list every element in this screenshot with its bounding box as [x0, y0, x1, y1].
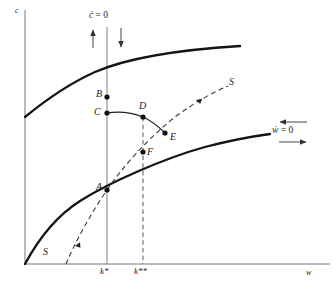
point-marker-E [162, 130, 167, 135]
upper-curve [25, 46, 240, 117]
point-label-C: C [94, 107, 101, 117]
point-marker-A [104, 187, 109, 192]
transition-path-c-to-e [107, 112, 165, 133]
saddle-arrowhead-lower-icon [75, 241, 83, 249]
x-axis-label: w [306, 269, 311, 277]
point-label-D: D [139, 101, 146, 111]
saddle-path-group [66, 86, 228, 264]
saddle-path-lower-branch [66, 190, 107, 264]
point-markers-group [104, 94, 167, 192]
c-dot-zero-isocline [93, 27, 121, 264]
saddle-label-upper: S [229, 77, 234, 87]
phase-diagram-figure: c w k* k** ċ = 0 ẇ = 0 S S A B C D E F [0, 0, 336, 290]
y-axis-label: c [15, 7, 19, 15]
point-marker-D [140, 114, 145, 119]
point-label-F: F [147, 147, 153, 157]
axes-group [25, 10, 330, 264]
point-label-E: E [170, 132, 176, 142]
point-marker-C [104, 110, 109, 115]
w-dot-equals-zero: = 0 [278, 125, 293, 135]
point-marker-F [140, 149, 145, 154]
phase-diagram-canvas [0, 0, 336, 290]
saddle-arrowhead-upper-icon [196, 97, 204, 105]
point-label-B: B [96, 89, 102, 99]
saddle-path-upper-branch [107, 86, 228, 190]
c-dot-zero-label: ċ = 0 [89, 11, 108, 21]
point-marker-B [104, 94, 109, 99]
point-label-A: A [96, 182, 102, 192]
tick-label-k-star: k* [100, 267, 109, 276]
w-dot-zero-label: ẇ = 0 [272, 126, 293, 136]
c-dot-equals-zero: = 0 [93, 10, 108, 20]
tick-label-k-double-star: k** [134, 267, 147, 276]
saddle-label-lower: S [43, 247, 48, 257]
